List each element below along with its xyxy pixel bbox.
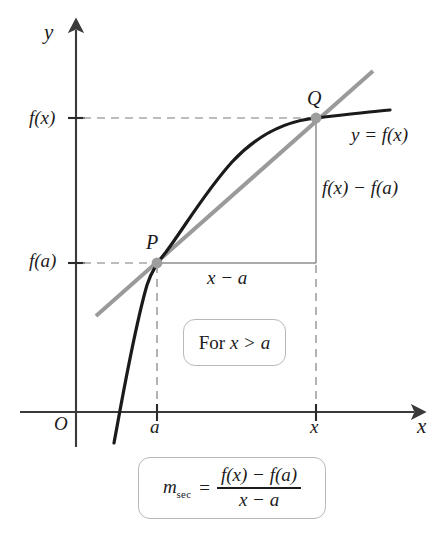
tick-label-fa: f(a) — [29, 251, 56, 270]
condition-text: For x > a — [199, 332, 270, 354]
formula-equals: = — [199, 477, 210, 499]
formula-numerator: f(x) − f(a) — [217, 465, 301, 487]
formula-lhs-subscript: sec — [177, 488, 192, 500]
slope-formula-callout: msec = f(x) − f(a) x − a — [138, 457, 326, 519]
condition-math: x > a — [230, 332, 270, 353]
formula-fraction: f(x) − f(a) x − a — [217, 465, 301, 510]
y-axis-label: y — [44, 22, 53, 43]
point-q-dot — [311, 113, 322, 124]
tick-label-fx: f(x) — [29, 108, 55, 127]
secant-line-figure: y x O a x f(x) f(a) P Q y = f(x) f(x) − … — [0, 0, 440, 535]
function-curve — [114, 110, 390, 443]
origin-label: O — [54, 414, 68, 433]
curve-function-label: y = f(x) — [351, 125, 408, 144]
condition-prefix: For — [199, 332, 230, 353]
point-q-label: Q — [307, 88, 321, 108]
slope-formula: msec = f(x) − f(a) x − a — [163, 465, 301, 510]
formula-lhs-base: m — [163, 476, 177, 497]
formula-lhs: msec — [163, 476, 192, 500]
rise-label: f(x) − f(a) — [322, 178, 398, 197]
tick-label-x: x — [310, 417, 318, 436]
condition-callout: For x > a — [183, 319, 286, 366]
run-label: x − a — [207, 268, 247, 287]
x-axis-label: x — [417, 416, 426, 437]
point-p-label: P — [146, 232, 158, 252]
tick-label-a: a — [150, 417, 160, 436]
point-p-dot — [152, 258, 163, 269]
formula-denominator: x − a — [235, 489, 283, 511]
